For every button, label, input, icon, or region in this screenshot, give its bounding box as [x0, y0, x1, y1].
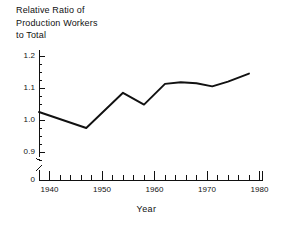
x-axis-title: Year	[0, 204, 293, 214]
data-line-0	[39, 74, 249, 128]
x-tick-label: 1950	[86, 185, 118, 194]
x-tick-label: 1980	[244, 185, 276, 194]
x-tick-label: 1960	[139, 185, 171, 194]
y-origin-label: 0	[30, 175, 35, 184]
y-axis-break-mark	[36, 165, 42, 171]
y-tick-label: 0.9	[24, 147, 35, 156]
chart-figure: Relative Ratio of Production Workers to …	[0, 0, 293, 227]
y-tick-label: 1.0	[24, 115, 35, 124]
axes-group	[36, 50, 263, 180]
x-tick-label: 1970	[191, 185, 223, 194]
y-tick-label: 1.1	[24, 83, 35, 92]
y-axis-break-mark	[36, 159, 42, 161]
chart-title: Relative Ratio of Production Workers to …	[16, 4, 98, 42]
y-tick-label: 1.2	[24, 51, 35, 60]
x-tick-label: 1940	[34, 185, 66, 194]
data-series-group	[39, 74, 249, 128]
